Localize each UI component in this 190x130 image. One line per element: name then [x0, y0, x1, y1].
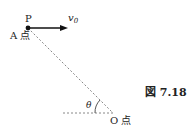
figure-caption: 図 7.18 — [145, 87, 187, 98]
velocity-label: v0 — [68, 13, 78, 25]
point-p-label: P — [25, 14, 32, 24]
point-a-label: A 点 — [10, 31, 30, 41]
angle-label: θ — [86, 101, 91, 110]
point-o-label: O 点 — [110, 116, 131, 126]
velocity-subscript: 0 — [74, 17, 78, 25]
velocity-arrowhead — [60, 25, 68, 31]
angle-arc — [95, 100, 100, 113]
